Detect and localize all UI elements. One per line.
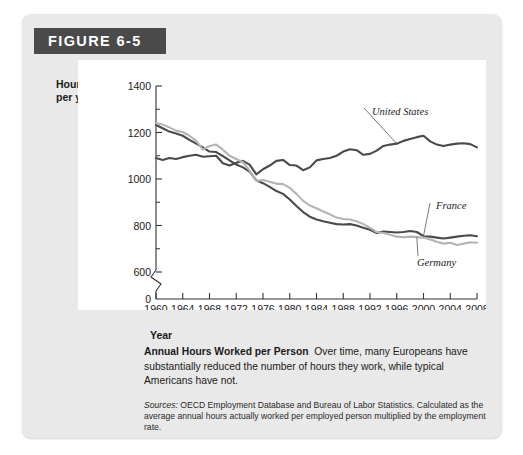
caption-heading: Annual Hours Worked per Person xyxy=(144,346,309,357)
plot-area: 6008001000120014000196019641968197219761… xyxy=(78,60,486,310)
caption-sources: Sources: OECD Employment Database and Bu… xyxy=(144,400,494,434)
svg-text:1984: 1984 xyxy=(305,303,329,310)
svg-text:1988: 1988 xyxy=(332,303,356,310)
sources-label: Sources: xyxy=(144,400,178,410)
figure-panel: FIGURE 6-5 Hours per year Year 600800100… xyxy=(22,14,502,438)
svg-text:2000: 2000 xyxy=(412,303,436,310)
svg-text:1960: 1960 xyxy=(144,303,168,310)
figure-title: FIGURE 6-5 xyxy=(34,33,142,49)
svg-text:600: 600 xyxy=(133,266,151,278)
series-label-germany: Germany xyxy=(417,257,456,268)
caption-main: Annual Hours Worked per Person Over time… xyxy=(144,345,494,389)
series-label-united-states: United States xyxy=(372,106,428,117)
line-chart: 6008001000120014000196019641968197219761… xyxy=(78,60,486,310)
svg-text:2008: 2008 xyxy=(465,303,486,310)
svg-text:1972: 1972 xyxy=(225,303,249,310)
svg-text:1000: 1000 xyxy=(128,173,152,185)
sources-body: OECD Employment Database and Bureau of L… xyxy=(144,400,486,433)
x-axis-title: Year xyxy=(150,329,190,342)
svg-text:1980: 1980 xyxy=(278,303,302,310)
svg-text:1200: 1200 xyxy=(128,127,152,139)
svg-text:1996: 1996 xyxy=(385,303,409,310)
svg-text:1976: 1976 xyxy=(251,303,275,310)
svg-text:1968: 1968 xyxy=(198,303,222,310)
figure-title-bar: FIGURE 6-5 xyxy=(34,28,166,54)
svg-text:2004: 2004 xyxy=(439,303,463,310)
svg-text:1400: 1400 xyxy=(128,80,152,92)
svg-text:800: 800 xyxy=(133,220,151,232)
caption-block: Annual Hours Worked per Person Over time… xyxy=(144,345,494,434)
svg-text:1992: 1992 xyxy=(358,303,382,310)
svg-text:1964: 1964 xyxy=(171,303,195,310)
series-label-france: France xyxy=(436,200,466,211)
